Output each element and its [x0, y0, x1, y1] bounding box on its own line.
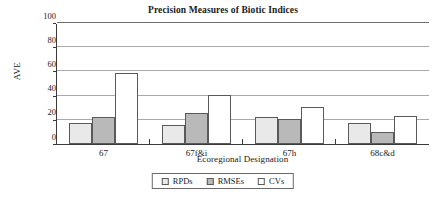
bars	[243, 24, 336, 144]
y-tick-label: 40	[26, 84, 56, 93]
y-tick-label: 100	[26, 11, 56, 20]
bar-cvs-68c&d[interactable]	[394, 116, 417, 144]
plot-area: 6767f&i67h68c&d	[56, 24, 429, 145]
legend-label: RMSEs	[218, 176, 244, 186]
y-tick-label: 20	[26, 108, 56, 117]
bar-cvs-67f&i[interactable]	[208, 95, 231, 144]
legend-item-cvs[interactable]: CVs	[258, 176, 284, 186]
legend-label: RPDs	[173, 176, 193, 186]
bar-chart: Precision Measures of Biotic Indices AVE…	[0, 0, 446, 203]
x-axis-label: Ecoregional Designation	[56, 154, 429, 164]
y-axis-ticks: 020406080100	[20, 24, 56, 145]
bar-group: 67	[57, 24, 150, 144]
bars	[150, 24, 243, 144]
y-tick-label: 60	[26, 60, 56, 69]
bar-group: 67f&i	[150, 24, 243, 144]
chart-legend: RPDsRMSEsCVs	[152, 173, 294, 189]
legend-swatch-icon	[207, 178, 214, 185]
bar-cvs-67h[interactable]	[301, 107, 324, 145]
legend-item-rmses[interactable]: RMSEs	[207, 176, 244, 186]
legend-label: CVs	[269, 176, 284, 186]
y-tick-label: 0	[26, 132, 56, 141]
bar-rpds-67f&i[interactable]	[162, 125, 185, 144]
bar-rpds-67[interactable]	[69, 123, 92, 144]
bar-rpds-68c&d[interactable]	[348, 123, 371, 144]
bars	[336, 24, 429, 144]
bar-rmses-68c&d[interactable]	[371, 132, 394, 144]
bar-groups: 6767f&i67h68c&d	[57, 24, 429, 144]
bar-rmses-67[interactable]	[92, 117, 115, 144]
legend-item-rpds[interactable]: RPDs	[162, 176, 193, 186]
bar-rmses-67h[interactable]	[278, 119, 301, 144]
bar-rpds-67h[interactable]	[255, 117, 278, 144]
bar-group: 67h	[243, 24, 336, 144]
bars	[57, 24, 150, 144]
bar-rmses-67f&i[interactable]	[185, 113, 208, 144]
legend-swatch-icon	[162, 178, 169, 185]
chart-title: Precision Measures of Biotic Indices	[0, 5, 446, 16]
legend-swatch-icon	[258, 178, 265, 185]
bar-group: 68c&d	[336, 24, 429, 144]
gridline-100	[57, 22, 429, 23]
y-tick-label: 80	[26, 35, 56, 44]
bar-cvs-67[interactable]	[115, 73, 138, 144]
